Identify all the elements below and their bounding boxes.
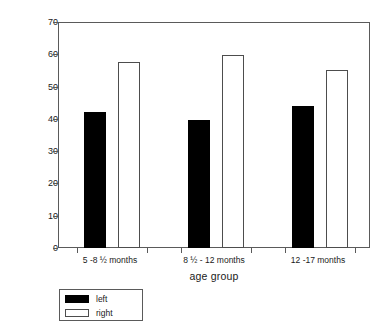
- legend-label-left: left: [96, 294, 107, 304]
- legend-swatch-right-icon: [65, 309, 89, 317]
- bar-chart-figure: % first looks to left or right 010203040…: [0, 0, 390, 327]
- x-category-label: 12 -17 months: [258, 253, 378, 267]
- x-category-label: 5 -8 ½ months: [50, 253, 170, 267]
- bar-group: [182, 22, 252, 248]
- bar-left: [84, 112, 106, 248]
- x-axis-title: age group: [58, 270, 370, 282]
- bar-group: [78, 22, 148, 248]
- legend-item-right: right: [65, 307, 142, 319]
- bars-layer: [58, 22, 370, 248]
- y-tick-mark: [53, 248, 58, 249]
- legend-swatch-left-icon: [65, 295, 89, 303]
- bar-group: [286, 22, 356, 248]
- bar-left: [188, 120, 210, 248]
- legend-label-right: right: [96, 308, 113, 318]
- bar-right: [118, 62, 140, 248]
- x-category-label: 8 ½ - 12 months: [154, 253, 274, 267]
- legend-item-left: left: [65, 293, 142, 305]
- bar-right: [222, 55, 244, 248]
- bar-right: [326, 70, 348, 248]
- bar-left: [292, 106, 314, 248]
- chart-legend: left right: [59, 289, 143, 321]
